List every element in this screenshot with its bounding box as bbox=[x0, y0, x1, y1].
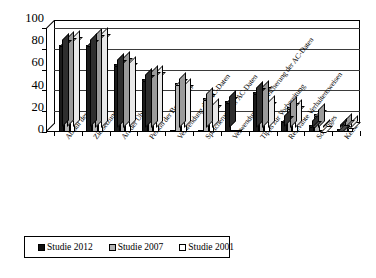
y-tick-label: 40 bbox=[32, 79, 45, 91]
y-tick-label: 100 bbox=[25, 12, 44, 24]
bar-studie-2007 bbox=[231, 130, 237, 132]
bar-side-face bbox=[229, 90, 236, 128]
y-tick-mark bbox=[42, 111, 47, 112]
axis-top-line bbox=[54, 20, 360, 21]
y-tick-mark bbox=[42, 70, 47, 71]
legend-item: Studie 2007 bbox=[109, 242, 164, 252]
y-tick-label: 60 bbox=[32, 56, 45, 68]
bar-studie-2012 bbox=[142, 79, 148, 132]
bar-studie-2012 bbox=[198, 130, 204, 132]
bar-side-face bbox=[145, 68, 152, 128]
bar-group bbox=[86, 28, 103, 132]
bar-studie-2001 bbox=[237, 130, 243, 132]
bar-group bbox=[59, 28, 76, 132]
y-axis-tick-labels: 100 80 60 40 20 0 bbox=[14, 12, 44, 136]
white-square-icon bbox=[179, 244, 186, 251]
x-axis-category-labels: Ablauf des ACZielsetzung des ACArt der Ü… bbox=[0, 132, 376, 212]
bar-side-face bbox=[179, 72, 186, 128]
bar-side-face bbox=[256, 81, 263, 128]
bar-studie-2012 bbox=[337, 129, 343, 132]
bar-studie-2012 bbox=[59, 45, 65, 132]
y-tick-label: 80 bbox=[32, 34, 45, 46]
bar-group bbox=[142, 28, 159, 132]
bar-side-face bbox=[62, 33, 69, 127]
bar-studie-2012 bbox=[170, 130, 176, 132]
bar-studie-2001 bbox=[348, 126, 354, 132]
legend-item: Studie 2001 bbox=[179, 242, 234, 252]
bar-studie-2012 bbox=[309, 125, 315, 132]
bar-studie-2012 bbox=[86, 45, 92, 132]
bar-studie-2012 bbox=[253, 92, 259, 132]
bar-studie-2001 bbox=[320, 130, 326, 132]
bar-studie-2007 bbox=[175, 83, 181, 132]
axis-left-line bbox=[46, 28, 47, 132]
gray-square-icon bbox=[109, 244, 116, 251]
legend-label: Studie 2012 bbox=[47, 242, 93, 252]
bar-groups bbox=[54, 28, 360, 132]
y-tick-mark bbox=[42, 90, 47, 91]
bar-chart-figure: 100 80 60 40 20 0 bbox=[0, 0, 376, 278]
bar-studie-2012 bbox=[114, 64, 120, 132]
bar-side-face bbox=[206, 87, 213, 128]
legend-label: Studie 2007 bbox=[118, 242, 164, 252]
legend-item: Studie 2012 bbox=[38, 242, 93, 252]
bar-studie-2012 bbox=[281, 121, 287, 132]
y-tick-mark bbox=[42, 28, 47, 29]
bar-side-face bbox=[90, 33, 97, 127]
black-square-icon bbox=[38, 244, 45, 251]
bar-group bbox=[114, 28, 131, 132]
bar-side-face bbox=[117, 53, 124, 128]
plot-area: 100 80 60 40 20 0 bbox=[0, 0, 376, 215]
chart-legend: Studie 2012 Studie 2007 Studie 2001 bbox=[24, 236, 230, 258]
bar-studie-2007 bbox=[203, 98, 209, 132]
y-tick-mark bbox=[42, 49, 47, 50]
bar-studie-2012 bbox=[225, 101, 231, 132]
legend-label: Studie 2001 bbox=[188, 242, 234, 252]
